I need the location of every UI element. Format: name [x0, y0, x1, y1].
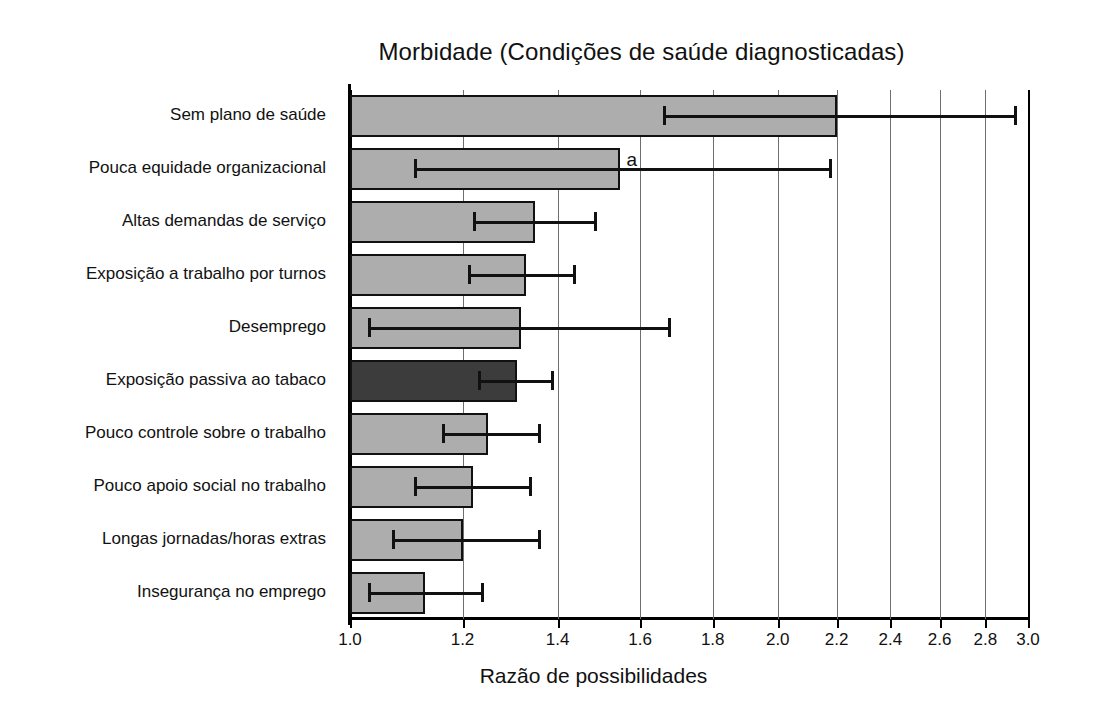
x-tick-2.6 — [940, 619, 942, 628]
error-bar-cap-high — [481, 583, 484, 602]
category-label: Pouco apoio social no trabalho — [94, 476, 327, 496]
x-tick-2.4 — [890, 619, 892, 628]
x-tick-label: 1.8 — [690, 630, 736, 650]
error-bar-cap-high — [573, 265, 576, 284]
error-bar-cap-low — [442, 424, 445, 443]
x-axis-label-text: Razão de possibilidades — [480, 664, 708, 688]
x-tick-3.0 — [1028, 619, 1030, 628]
error-bar-line — [442, 433, 540, 436]
x-tick-2.2 — [837, 619, 839, 628]
x-axis-label: Razão de possibilidades — [0, 664, 1103, 688]
x-tick-label: 1.0 — [327, 630, 373, 650]
x-tick-label: 1.6 — [617, 630, 663, 650]
error-bar-cap-high — [668, 318, 671, 337]
error-bar-cap-low — [414, 159, 417, 178]
category-label: Desemprego — [229, 317, 326, 337]
x-tick-1.0 — [350, 619, 352, 628]
chart-container: Morbidade (Condições de saúde diagnostic… — [0, 0, 1103, 723]
error-bar-cap-low — [468, 265, 471, 284]
x-tick-1.8 — [713, 619, 715, 628]
category-label: Altas demandas de serviço — [122, 211, 326, 231]
x-tick-label: 2.6 — [917, 630, 963, 650]
error-bar-cap-low — [473, 212, 476, 231]
error-bar-cap-high — [529, 477, 532, 496]
error-bar-cap-high — [829, 159, 832, 178]
x-tick-label: 2.4 — [867, 630, 913, 650]
error-bar-cap-high — [594, 212, 597, 231]
x-tick-1.2 — [463, 619, 465, 628]
error-bar-cap-low — [663, 106, 666, 125]
plot-area: a — [350, 90, 1028, 619]
category-label: Exposição passiva ao tabaco — [106, 370, 326, 390]
gridline-2.6 — [940, 90, 941, 619]
gridline-2.4 — [890, 90, 891, 619]
x-tick-2.0 — [778, 619, 780, 628]
x-tick-label: 2.0 — [755, 630, 801, 650]
error-bar-line — [663, 115, 1016, 118]
error-bar-cap-high — [551, 371, 554, 390]
error-bar-cap-high — [538, 530, 541, 549]
error-bar-cap-low — [392, 530, 395, 549]
gridline-3.0 — [1028, 90, 1030, 619]
error-bar-cap-low — [368, 318, 371, 337]
category-label: Sem plano de saúde — [170, 105, 326, 125]
error-bar-cap-high — [1014, 106, 1017, 125]
x-tick-label: 3.0 — [1005, 630, 1051, 650]
error-bar-line — [414, 486, 530, 489]
error-bar-cap-low — [414, 477, 417, 496]
error-bar-cap-high — [538, 424, 541, 443]
x-tick-label: 1.4 — [535, 630, 581, 650]
annotation-superscript: a — [626, 149, 637, 171]
error-bar-line — [368, 327, 670, 330]
error-bar-line — [392, 539, 540, 542]
category-label: Pouca equidade organizacional — [89, 158, 326, 178]
category-label: Exposição a trabalho por turnos — [86, 264, 326, 284]
error-bar-line — [368, 592, 483, 595]
x-tick-1.4 — [558, 619, 560, 628]
category-label: Longas jornadas/horas extras — [102, 529, 326, 549]
category-label: Pouco controle sobre o trabalho — [85, 423, 326, 443]
x-tick-1.6 — [640, 619, 642, 628]
x-tick-label: 2.2 — [814, 630, 860, 650]
error-bar-cap-low — [368, 583, 371, 602]
category-axis-labels: Sem plano de saúdePouca equidade organiz… — [0, 0, 338, 723]
x-tick-label: 1.2 — [440, 630, 486, 650]
error-bar-line — [473, 221, 596, 224]
error-bar-line — [468, 274, 575, 277]
category-label: Insegurança no emprego — [137, 582, 326, 602]
chart-title-text: Morbidade (Condições de saúde diagnostic… — [378, 38, 904, 66]
gridline-2.2 — [837, 90, 838, 619]
x-tick-label: 2.8 — [962, 630, 1008, 650]
error-bar-cap-low — [478, 371, 481, 390]
error-bar-line — [478, 380, 553, 383]
gridline-2.8 — [985, 90, 986, 619]
error-bar-line — [414, 168, 831, 171]
x-tick-2.8 — [985, 619, 987, 628]
